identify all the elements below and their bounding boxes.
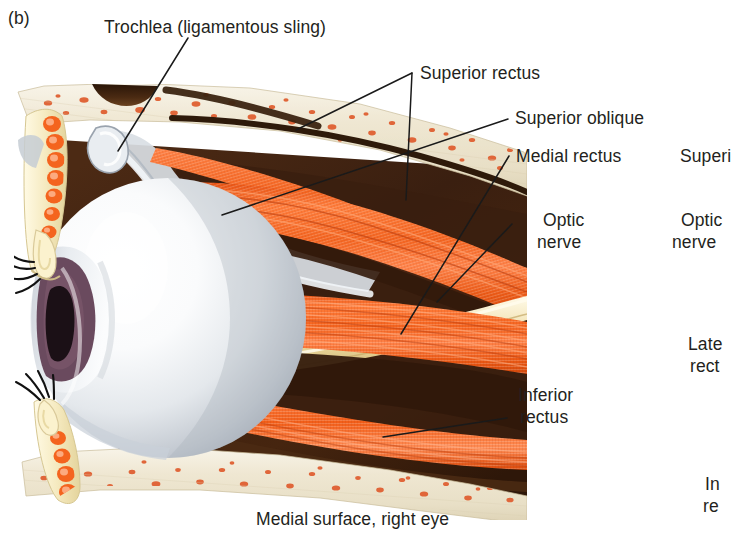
adjacent-label-optic-line2: nerve — [672, 232, 716, 253]
label-superior-rectus: Superior rectus — [420, 63, 540, 84]
panel-letter: (b) — [8, 8, 30, 29]
adjacent-label-lateral-line1: Late — [688, 334, 722, 355]
adjacent-label-optic-line1: Optic — [681, 210, 722, 231]
eyeball — [30, 178, 306, 460]
figure-caption: Medial surface, right eye — [256, 509, 449, 530]
eye-orbit-anatomy-illustration — [0, 0, 738, 542]
label-optic-nerve-line2: nerve — [537, 232, 581, 253]
adjacent-label-lateral-line2: rect — [690, 356, 720, 377]
adjacent-label-inferior-line2: re — [703, 496, 719, 517]
figure-panel-b: (b) Trochlea (ligamentous sling) Superio… — [0, 0, 738, 542]
trochlea — [88, 126, 129, 173]
adjacent-label-superior-clipped: Superi — [680, 146, 731, 167]
label-inferior-rectus-line1: Inferior — [518, 385, 573, 406]
orbit-contents — [8, 83, 527, 524]
label-inferior-rectus-line2: rectus — [520, 407, 568, 428]
label-superior-oblique: Superior oblique — [515, 108, 644, 129]
adjacent-label-inferior-line1: In — [705, 474, 720, 495]
label-medial-rectus: Medial rectus — [516, 146, 621, 167]
label-optic-nerve-line1: Optic — [543, 210, 584, 231]
label-trochlea: Trochlea (ligamentous sling) — [104, 17, 326, 38]
